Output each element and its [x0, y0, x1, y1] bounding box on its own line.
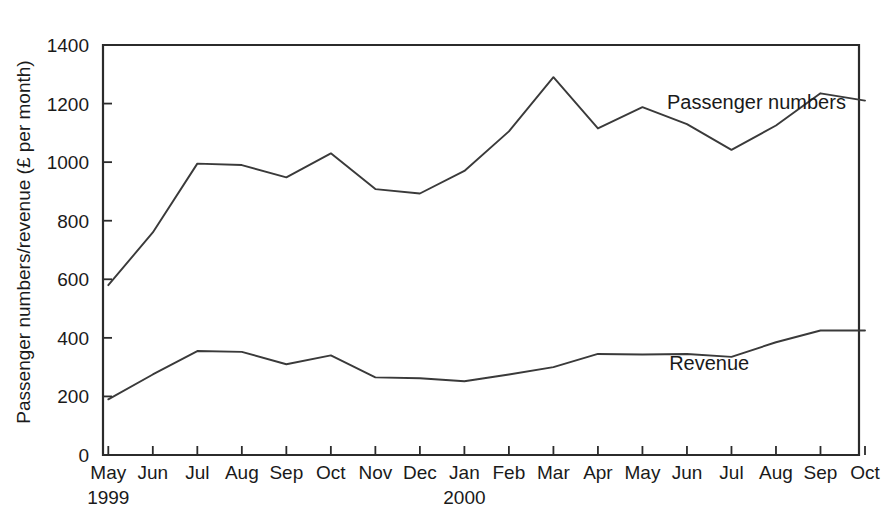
x-tick-label: Feb — [493, 462, 526, 483]
x-tick-label: Jun — [137, 462, 168, 483]
x-tick-label: Jul — [185, 462, 209, 483]
chart-canvas: 0200400600800100012001400 MayJunJulAugSe… — [0, 0, 889, 531]
x-tick-label: Oct — [850, 462, 880, 483]
x-axis-tick-labels: MayJunJulAugSepOctNovDecJanFebMarAprMayJ… — [90, 462, 880, 483]
x-tick-label: May — [624, 462, 660, 483]
x-tick-label: Nov — [358, 462, 392, 483]
x-axis-year-labels: 19992000 — [87, 487, 485, 508]
series-label-revenue: Revenue — [669, 352, 749, 374]
x-tick-label: Sep — [269, 462, 303, 483]
y-tick-label: 1400 — [47, 35, 89, 56]
line-chart-figure: 0200400600800100012001400 MayJunJulAugSe… — [0, 0, 889, 531]
x-tick-label: Oct — [316, 462, 346, 483]
x-axis-year-label: 2000 — [443, 487, 485, 508]
y-tick-label: 800 — [57, 211, 89, 232]
x-tick-label: May — [90, 462, 126, 483]
x-tick-label: Apr — [583, 462, 613, 483]
series-group — [108, 77, 865, 399]
y-tick-label: 1000 — [47, 152, 89, 173]
x-axis-ticks — [108, 446, 865, 455]
series-line-revenue — [108, 331, 865, 400]
y-tick-label: 200 — [57, 386, 89, 407]
y-tick-label: 1200 — [47, 94, 89, 115]
x-axis-year-label: 1999 — [87, 487, 129, 508]
y-axis-ticks — [103, 104, 112, 397]
x-tick-label: Dec — [403, 462, 437, 483]
x-tick-label: Jun — [672, 462, 703, 483]
x-tick-label: Aug — [225, 462, 259, 483]
y-tick-label: 0 — [78, 445, 89, 466]
x-tick-label: Jul — [719, 462, 743, 483]
y-tick-label: 400 — [57, 328, 89, 349]
y-tick-label: 600 — [57, 269, 89, 290]
series-label-passenger-numbers: Passenger numbers — [667, 91, 846, 113]
x-tick-label: Mar — [537, 462, 570, 483]
x-tick-label: Jan — [449, 462, 480, 483]
y-axis-title: Passenger numbers/revenue (£ per month) — [13, 60, 34, 423]
y-axis-tick-labels: 0200400600800100012001400 — [47, 35, 89, 466]
x-tick-label: Sep — [804, 462, 838, 483]
x-tick-label: Aug — [759, 462, 793, 483]
